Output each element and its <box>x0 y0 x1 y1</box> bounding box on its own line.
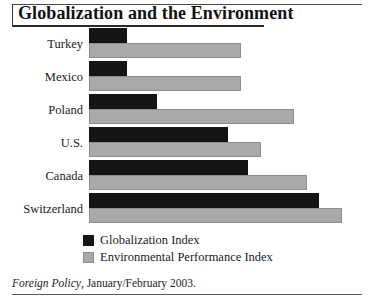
footer-issue-date: , January/February 2003. <box>81 277 196 289</box>
bar-chart: TurkeyMexicoPolandU.S.CanadaSwitzerland <box>0 28 370 230</box>
category-label: Switzerland <box>0 201 83 217</box>
footer-citation: Foreign Policy, January/February 2003. <box>12 276 196 290</box>
bar-environmental-performance-index <box>89 208 342 223</box>
chart-row: Canada <box>0 160 370 193</box>
bar-environmental-performance-index <box>89 43 241 58</box>
category-label: Turkey <box>0 36 83 52</box>
title-underline-rule <box>12 25 264 27</box>
chart-row: Mexico <box>0 61 370 94</box>
page-title: Globalization and the Environment <box>18 2 294 24</box>
category-label: Canada <box>0 168 83 184</box>
legend-label-globalization: Globalization Index <box>100 233 200 248</box>
category-label: Poland <box>0 102 83 118</box>
bar-environmental-performance-index <box>89 76 241 91</box>
legend-item-environment: Environmental Performance Index <box>83 250 273 265</box>
chart-row: Poland <box>0 94 370 127</box>
bar-environmental-performance-index <box>89 175 307 190</box>
chart-row: Turkey <box>0 28 370 61</box>
legend-swatch-globalization-icon <box>83 235 94 246</box>
legend-item-globalization: Globalization Index <box>83 233 273 248</box>
footer-source-name: Foreign Policy <box>12 277 81 289</box>
bar-environmental-performance-index <box>89 142 261 157</box>
chart-row: Switzerland <box>0 193 370 226</box>
category-label: U.S. <box>0 135 83 151</box>
chart-row: U.S. <box>0 127 370 160</box>
bar-globalization-index <box>89 160 248 175</box>
category-label: Mexico <box>0 69 83 85</box>
footer-bottom-rule <box>12 294 362 295</box>
bar-globalization-index <box>89 193 319 208</box>
legend-label-environment: Environmental Performance Index <box>100 250 273 265</box>
chart-legend: Globalization Index Environmental Perfor… <box>83 233 273 267</box>
bar-globalization-index <box>89 28 127 43</box>
bar-globalization-index <box>89 127 228 142</box>
bar-environmental-performance-index <box>89 109 294 124</box>
legend-swatch-environment-icon <box>83 252 94 263</box>
bar-globalization-index <box>89 61 127 76</box>
title-left-rule <box>12 4 13 26</box>
bar-globalization-index <box>89 94 157 109</box>
